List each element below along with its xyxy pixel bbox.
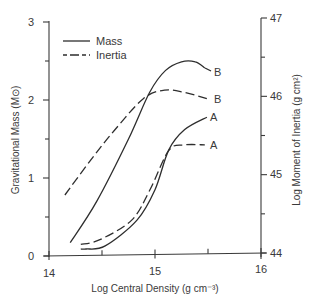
plot-area — [65, 61, 207, 249]
y2-axis-title: Log Moment of Inertia (g cm²) — [291, 74, 302, 206]
legend-mass-label: Mass — [96, 35, 123, 47]
y2-tick-label: 46 — [270, 90, 282, 102]
mass-b-label: B — [214, 66, 221, 78]
inertia-b-label: B — [214, 93, 221, 105]
y2-tick-label: 45 — [270, 168, 282, 180]
mass-b-line — [70, 61, 205, 243]
legend-inertia-label: Inertia — [96, 49, 127, 61]
y-tick-label: 1 — [28, 172, 34, 184]
x-tick-label: 14 — [43, 267, 55, 279]
x-axis-title: Log Central Density (g cm⁻³) — [91, 283, 218, 294]
x-tick-label: 16 — [255, 263, 267, 275]
y2-tick-label: 44 — [270, 247, 282, 259]
x-tick-label: 15 — [149, 265, 161, 277]
y-tick-label: 2 — [28, 94, 34, 106]
mass-a-line — [81, 117, 207, 249]
mass-a-label: A — [210, 111, 218, 123]
inertia-a-line — [81, 145, 205, 245]
label-leader — [205, 68, 211, 71]
y2-tick-label: 47 — [270, 12, 282, 24]
legend: Mass Inertia — [63, 35, 127, 61]
chart: 3 2 1 0 47 46 45 44 14 15 16 Log Central… — [0, 0, 312, 305]
axis-ticks — [43, 18, 267, 260]
inertia-b-line — [65, 90, 207, 195]
y-tick-label: 3 — [28, 16, 34, 28]
y-axis-title: Gravitational Mass (M⊙) — [10, 86, 21, 195]
inertia-a-label: A — [210, 139, 218, 151]
y-tick-label: 0 — [28, 250, 34, 262]
